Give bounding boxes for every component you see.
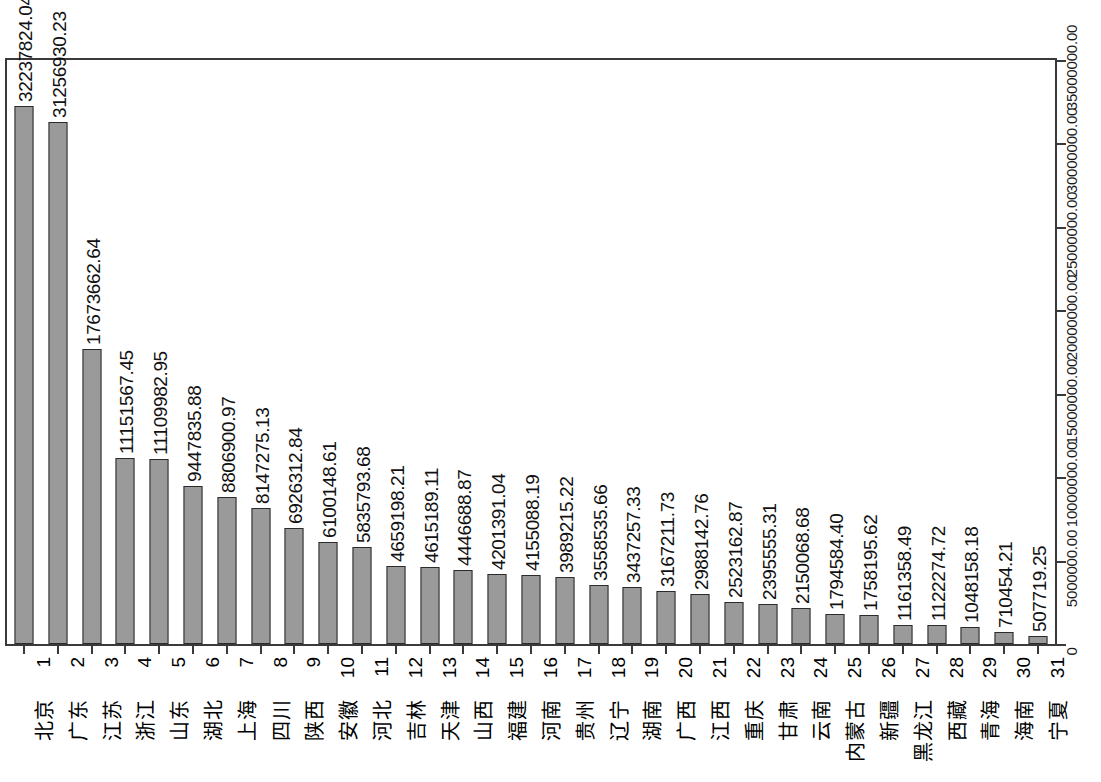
x-tick xyxy=(226,646,228,654)
bar xyxy=(657,591,676,644)
bar-value-label: 3558535.66 xyxy=(591,484,610,580)
x-label-column: 4浙江 xyxy=(108,655,142,782)
x-label-column: 5山东 xyxy=(142,655,176,782)
x-tick xyxy=(192,646,194,654)
bar xyxy=(555,577,574,644)
x-label-column: 9陕西 xyxy=(277,655,311,782)
bar xyxy=(319,542,338,644)
x-label-column: 26新疆 xyxy=(852,655,886,782)
bar-value-label: 6926312.84 xyxy=(286,428,305,524)
bar xyxy=(386,566,405,644)
x-tick xyxy=(665,646,667,654)
bar-chart: 32237824.0431256930.2317673662.641115156… xyxy=(0,0,1101,782)
bar-column: 5835793.68 xyxy=(345,60,379,644)
bar xyxy=(488,574,507,644)
bar-column: 1758195.62 xyxy=(852,60,886,644)
x-tick xyxy=(800,646,802,654)
bar-column: 4201391.04 xyxy=(480,60,514,644)
bar-column: 11151567.45 xyxy=(108,60,142,644)
x-tick xyxy=(564,646,566,654)
y-axis: 05000000.0010000000.0015000000.002000000… xyxy=(1057,58,1101,648)
bar xyxy=(860,615,879,644)
bar-value-label: 4446688.87 xyxy=(455,469,474,565)
bar-column: 1048158.18 xyxy=(954,60,988,644)
bar-value-label: 4659198.21 xyxy=(388,466,407,562)
bar-column: 1161358.49 xyxy=(886,60,920,644)
bar-value-label: 5835793.68 xyxy=(354,446,373,542)
bar-value-label: 1794584.40 xyxy=(827,514,846,610)
x-label-column: 15福建 xyxy=(480,655,514,782)
bar-value-label: 4201391.04 xyxy=(489,474,508,570)
bar xyxy=(183,486,202,644)
bar-value-label: 32237824.04 xyxy=(16,0,35,102)
bar-column: 710454.21 xyxy=(987,60,1021,644)
bar-column: 4615189.11 xyxy=(413,60,447,644)
x-tick xyxy=(260,646,262,654)
bar-column: 8806900.97 xyxy=(210,60,244,644)
y-tick-label: 30000000.00 xyxy=(1064,108,1079,193)
x-tick xyxy=(361,646,363,654)
bar-column: 3989215.22 xyxy=(548,60,582,644)
x-tick xyxy=(936,646,938,654)
x-label-column: 10安徽 xyxy=(311,655,345,782)
bar-value-label: 710454.21 xyxy=(996,542,1015,628)
bar xyxy=(961,627,980,644)
bar xyxy=(285,528,304,644)
y-tick-label: 15000000.00 xyxy=(1064,359,1079,444)
bar-column: 3437257.33 xyxy=(616,60,650,644)
bar xyxy=(927,625,946,644)
bar xyxy=(995,632,1014,644)
x-label-column: 7上海 xyxy=(210,655,244,782)
x-label-column: 18辽宁 xyxy=(582,655,616,782)
bar xyxy=(420,567,439,644)
x-tick xyxy=(293,646,295,654)
y-tick-label: 10000000.00 xyxy=(1064,442,1079,527)
bar-column: 32237824.04 xyxy=(7,60,41,644)
x-tick xyxy=(395,646,397,654)
bar-column: 1122274.72 xyxy=(920,60,954,644)
x-label-column: 21江西 xyxy=(683,655,717,782)
bar-column: 2523162.87 xyxy=(717,60,751,644)
x-tick xyxy=(327,646,329,654)
bar-column: 4155088.19 xyxy=(514,60,548,644)
bar-column: 2988142.76 xyxy=(683,60,717,644)
x-label-column: 17贵州 xyxy=(548,655,582,782)
x-label-column: 27黑龙江 xyxy=(886,655,920,782)
bar-column: 4659198.21 xyxy=(379,60,413,644)
x-label-column: 24云南 xyxy=(785,655,819,782)
x-label-column: 6湖北 xyxy=(176,655,210,782)
bar-column: 31256930.23 xyxy=(41,60,75,644)
x-tick xyxy=(868,646,870,654)
bar-value-label: 31256930.23 xyxy=(50,12,69,119)
x-label-column: 13天津 xyxy=(413,655,447,782)
x-label-column: 28西藏 xyxy=(920,655,954,782)
bar-value-label: 11109982.95 xyxy=(151,351,170,455)
x-label-column: 20广西 xyxy=(649,655,683,782)
bar xyxy=(893,625,912,644)
x-tick xyxy=(462,646,464,654)
x-label-column: 3江苏 xyxy=(75,655,109,782)
x-axis-labels: 1北京2广东3江苏4浙江5山东6湖北7上海8四川9陕西10安徽11河北12吉林1… xyxy=(7,655,1055,782)
bar-value-label: 8147275.13 xyxy=(253,408,272,504)
bar-value-label: 4615189.11 xyxy=(422,468,441,563)
bar-value-label: 1048158.18 xyxy=(962,526,981,622)
bar-column: 11109982.95 xyxy=(142,60,176,644)
x-label-column: 16河南 xyxy=(514,655,548,782)
bar xyxy=(521,575,540,644)
bar-value-label: 17673662.64 xyxy=(84,239,103,346)
bar-value-label: 2150068.68 xyxy=(793,508,812,604)
bar-column: 2395555.31 xyxy=(751,60,785,644)
bars-area: 32237824.0431256930.2317673662.641115156… xyxy=(7,60,1055,644)
x-label-column: 12吉林 xyxy=(379,655,413,782)
x-label-column: 31宁夏 xyxy=(1021,655,1055,782)
x-label-column: 23甘肃 xyxy=(751,655,785,782)
bar xyxy=(724,602,743,644)
y-tick-label: 0 xyxy=(1064,647,1079,655)
x-label-column: 22重庆 xyxy=(717,655,751,782)
bar xyxy=(217,497,236,644)
bar xyxy=(623,587,642,644)
y-tick-label: 25000000.00 xyxy=(1064,192,1079,277)
bar xyxy=(1029,636,1048,644)
y-tick xyxy=(1057,644,1066,646)
y-tick-label: 20000000.00 xyxy=(1064,275,1079,360)
